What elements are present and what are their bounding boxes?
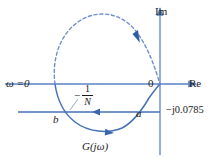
imaginary-intercept-label: −j0.0785: [166, 105, 204, 116]
omega-zero-label: ω =0: [6, 78, 29, 89]
nyquist-describing-function-figure: ω =0 Re Im 0 −j0.0785 b a G(jω) − 1 N: [0, 0, 210, 165]
point-b-label: b: [53, 114, 59, 125]
minus-sign: −: [74, 90, 80, 101]
dashed-curve-direction-arrow: [131, 29, 142, 43]
fraction-numerator: 1: [83, 84, 92, 95]
fraction: 1 N: [82, 84, 93, 107]
fraction-denominator: N: [82, 96, 93, 107]
minus-one-over-n-label: − 1 N: [74, 84, 93, 107]
real-axis-label: Re: [189, 78, 201, 89]
imaginary-axis-label: Im: [155, 6, 167, 17]
minus-one-over-n-direction-arrow: [92, 109, 100, 116]
point-a-label: a: [136, 108, 142, 119]
origin-label: 0: [148, 78, 154, 89]
transfer-function-label: G(jω): [82, 141, 108, 152]
g-jw-dashed-curve: [54, 14, 160, 84]
g-jw-solid-curve: [55, 84, 160, 131]
